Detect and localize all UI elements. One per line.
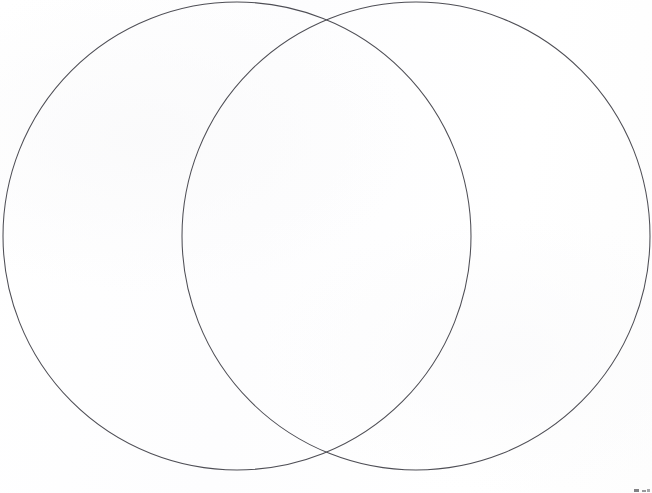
- venn-circle-right[interactable]: [182, 2, 650, 470]
- venn-diagram-svg: [0, 0, 652, 493]
- venn-diagram-canvas: Venn Diagram: [0, 0, 652, 493]
- venn-circle-left[interactable]: [3, 2, 471, 470]
